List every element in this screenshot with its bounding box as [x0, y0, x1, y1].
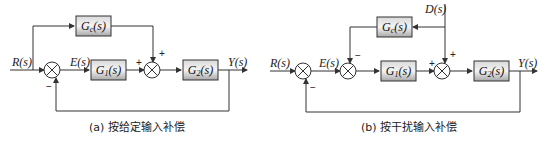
block-g2-b: G2(s) [474, 61, 509, 81]
output-label-b: Y(s) [518, 56, 537, 70]
summing-junction-2-a [144, 62, 160, 78]
summing-junction-1-b [295, 63, 311, 79]
input-label-b: R(s) [269, 56, 290, 70]
svg-text:Gc(s): Gc(s) [81, 19, 106, 34]
summing-junction-1-a [44, 62, 60, 78]
disturbance-label-b: D(s) [424, 2, 446, 16]
sign-sum2-top-a: + [159, 48, 165, 59]
block-g1-b: G1(s) [381, 61, 416, 81]
caption-a: (a) 按给定输入补偿 [89, 120, 185, 134]
svg-text:G1(s): G1(s) [96, 63, 121, 78]
svg-text:Gc(s): Gc(s) [382, 20, 407, 35]
sign-sum3-left-b: + [429, 58, 435, 69]
summing-junction-2-b [340, 63, 356, 79]
sign-feedback-b: − [310, 82, 316, 93]
input-label-a: R(s) [11, 55, 32, 69]
error-label-b: E(s) [318, 56, 339, 70]
sign-sum3-top-b: + [450, 49, 456, 60]
block-gc-a: Gc(s) [76, 16, 111, 36]
summing-junction-3-b [434, 63, 450, 79]
error-label-a: E(s) [69, 55, 90, 69]
sign-sum2-left-a: + [136, 57, 142, 68]
svg-text:G1(s): G1(s) [386, 64, 411, 79]
svg-text:G2(s): G2(s) [188, 63, 213, 78]
block-g1-a: G1(s) [91, 60, 126, 80]
block-g2-a: G2(s) [183, 60, 218, 80]
output-label-a: Y(s) [228, 55, 247, 69]
sign-feedback-a: − [46, 81, 52, 92]
svg-text:G2(s): G2(s) [479, 64, 504, 79]
block-gc-b: Gc(s) [377, 17, 412, 37]
sign-sum2-top-b: − [355, 50, 361, 61]
caption-b: (b) 按干扰输入补偿 [361, 120, 457, 134]
